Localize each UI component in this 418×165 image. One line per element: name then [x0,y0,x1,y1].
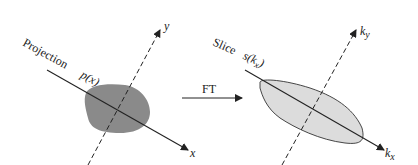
ky-axis-label: ky [360,24,370,40]
y-axis-label: y [163,19,170,33]
x-axis-label: x [189,146,196,160]
kx-axis [245,70,384,150]
slice-function: s(kx) [240,48,267,72]
slice-label-group: Slice s(kx) [210,35,267,72]
fourier-slice-diagram: y x Projection p(x) FT ky kx Slice s(kx) [0,0,418,165]
kx-axis-label: kx [385,146,395,162]
x-axis [47,70,188,150]
right-panel: ky kx Slice s(kx) [210,24,395,165]
ft-arrow: FT [182,82,242,98]
slice-label: Slice [211,35,239,58]
projection-label: Projection [21,35,71,71]
object-blob [85,84,150,133]
ft-label: FT [202,82,217,96]
left-panel: y x Projection p(x) [21,19,196,165]
projection-label-group: Projection p(x) [21,35,102,89]
